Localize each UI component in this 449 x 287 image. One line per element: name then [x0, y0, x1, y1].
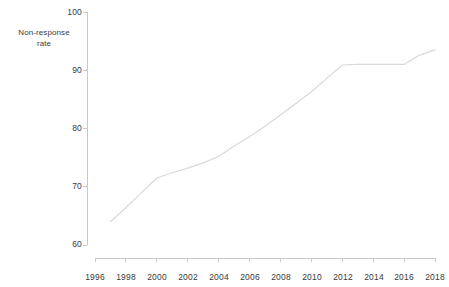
data-line-non-response-rate [110, 50, 435, 222]
y-axis [83, 12, 87, 245]
x-axis [95, 258, 435, 262]
y-axis-ticks [83, 12, 87, 245]
x-axis-ticks [95, 258, 435, 262]
